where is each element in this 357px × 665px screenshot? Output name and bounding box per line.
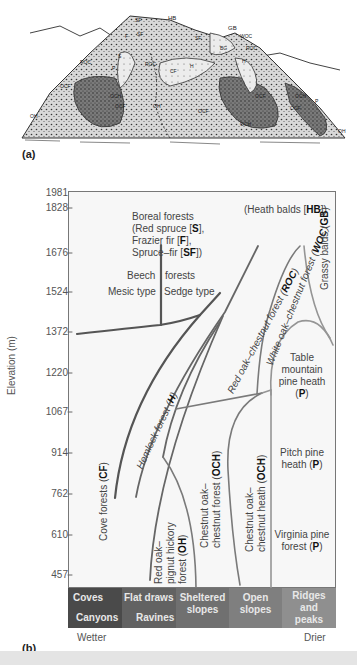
och-heath-line-1: Chestnut oak– <box>244 455 256 552</box>
table-line-3: pine heath <box>272 376 332 388</box>
band-canyons: Canyons <box>76 612 118 623</box>
pitch-line-2: heath (P) <box>272 459 332 471</box>
heath-balds-label: (Heath balds [HB]) <box>244 204 327 216</box>
beech-forests-label: forests <box>165 270 195 282</box>
band-coves-canyons: Coves Canyons <box>68 588 122 628</box>
band-ridges: Ridges <box>282 590 336 602</box>
band-sheltered: Sheltered <box>176 592 229 604</box>
wetter-label: Wetter <box>77 632 106 643</box>
boreal-line-2: (Red spruce [S], <box>132 223 204 235</box>
moisture-gradient-band: Coves Canyons Flat draws Ravines Shelter… <box>68 588 336 628</box>
page-edge-shadow <box>0 651 357 665</box>
band-ridges-peaks: Ridges and peaks <box>282 588 336 628</box>
oh-line-3: forest (OH) <box>177 522 189 584</box>
oh-line-1: Red oak– <box>153 522 165 584</box>
oh-line-2: pignut hickory <box>165 522 177 584</box>
mesic-type-label: Mesic type <box>108 286 156 298</box>
red-oak-hickory-label: Red oak– pignut hickory forest (OH) <box>153 522 189 584</box>
band-coves: Coves <box>73 592 103 603</box>
och-forest-line-1: Chestnut oak– <box>199 451 211 548</box>
band-open-slopes: Open slopes <box>229 588 282 628</box>
drier-label: Drier <box>304 632 326 643</box>
band-peaks: peaks <box>282 614 336 626</box>
cove-forests-label: Cove forests (CF) <box>98 462 110 541</box>
band-and: and <box>282 602 336 614</box>
band-ravines: Ravines <box>136 612 174 623</box>
table-line-1: Table <box>272 352 332 364</box>
band-slopes: slopes <box>176 604 229 616</box>
och-heath-line-2: chestnut heath (OCH) <box>256 455 268 552</box>
pitch-line-1: Pitch pine <box>272 447 332 459</box>
virginia-line-2: forest (P) <box>270 541 334 553</box>
pitch-pine-label: Pitch pine heath (P) <box>272 447 332 471</box>
virginia-line-1: Virginia pine <box>270 529 334 541</box>
band-flat-draws-ravines: Flat draws Ravines <box>122 588 176 628</box>
band-sheltered-slopes: Sheltered slopes <box>176 588 229 628</box>
chestnut-oak-heath-label: Chestnut oak– chestnut heath (OCH) <box>244 455 268 552</box>
table-mountain-pine-label: Table mountain pine heath (P) <box>272 352 332 400</box>
och-forest-line-2: chestnut forest (OCH) <box>211 451 223 548</box>
band-open-slopes-text: slopes <box>229 604 282 616</box>
sedge-type-label: Sedge type <box>164 286 215 298</box>
boreal-line-1: Boreal forests <box>132 211 204 223</box>
band-flat-draws: Flat draws <box>124 592 173 603</box>
boreal-line-4: Spruce–fir [SF]) <box>132 247 204 259</box>
beech-label: Beech <box>127 270 155 282</box>
boreal-line-3: Frazier fir [F], <box>132 235 204 247</box>
table-line-4: (P) <box>272 388 332 400</box>
virginia-pine-label: Virginia pine forest (P) <box>270 529 334 553</box>
grassy-balds-label: Grassy balds (GB) <box>319 207 331 290</box>
table-line-2: mountain <box>272 364 332 376</box>
band-open: Open <box>229 592 282 604</box>
boreal-forests-label: Boreal forests (Red spruce [S], Frazier … <box>132 211 204 259</box>
chestnut-oak-forest-label: Chestnut oak– chestnut forest (OCH) <box>199 451 223 548</box>
